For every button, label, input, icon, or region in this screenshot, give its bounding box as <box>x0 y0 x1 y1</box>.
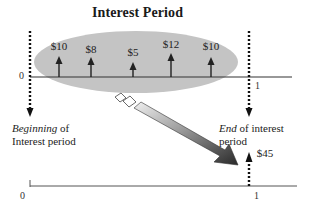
end-of-period-label: End of interest period <box>219 122 284 148</box>
cash-flow-label: $5 <box>128 46 139 58</box>
cash-flow-label: $12 <box>163 38 180 50</box>
bottom-timeline-start-label: 0 <box>20 190 25 201</box>
beginning-emphasis: Beginning <box>12 122 57 134</box>
total-amount-label: $45 <box>257 147 274 159</box>
arrow-up-icon <box>246 152 253 162</box>
end-emphasis: End <box>219 122 237 134</box>
diagram-canvas <box>0 0 311 209</box>
beginning-line2: Interest period <box>12 135 76 148</box>
top-timeline-start-label: 0 <box>19 70 24 81</box>
diagram-title: Interest Period <box>92 5 183 21</box>
beginning-of-period-label: Beginning of Interest period <box>12 122 76 148</box>
end-rest: of interest <box>237 122 284 134</box>
arrow-down-icon <box>27 108 34 117</box>
total-cash-flow-arrow <box>246 152 253 186</box>
bottom-timeline-end-label: 1 <box>254 190 259 201</box>
cash-flow-label: $10 <box>51 40 68 52</box>
cash-flow-label: $10 <box>203 40 220 52</box>
end-boundary-dotted-arrow <box>246 31 253 117</box>
cash-flow-label: $8 <box>86 43 97 55</box>
end-line2: period <box>219 135 284 148</box>
arrow-down-icon <box>246 108 253 117</box>
beginning-rest: of <box>57 122 69 134</box>
beginning-boundary-dotted-arrow <box>27 31 34 117</box>
top-timeline-end-label: 1 <box>255 80 260 91</box>
